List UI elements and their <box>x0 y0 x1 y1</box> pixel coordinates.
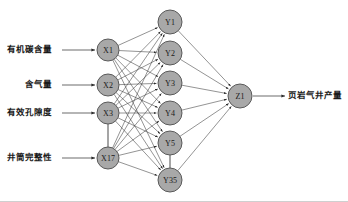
node-Y2[interactable]: Y2 <box>158 41 182 65</box>
edge-X2-to-Y1 <box>116 32 161 78</box>
edge-X1-to-Y1 <box>118 28 158 46</box>
edge-X2-to-Y35 <box>114 94 163 168</box>
node-label-Y1: Y1 <box>165 18 175 27</box>
input-label-3: 有效孔隙度 <box>7 108 52 117</box>
edge-Y4-to-Z1 <box>182 99 227 110</box>
node-X2[interactable]: X2 <box>97 74 119 96</box>
node-label-Y35: Y35 <box>163 176 177 185</box>
edge-Y35-to-Z1 <box>178 106 232 170</box>
node-label-Y3: Y3 <box>165 79 175 88</box>
edges-hidden-to-output <box>178 31 232 171</box>
node-label-Y2: Y2 <box>165 49 175 58</box>
edge-X1-to-Y2 <box>119 51 157 53</box>
node-label-Y5: Y5 <box>165 139 175 148</box>
node-Y35[interactable]: Y35 <box>158 168 182 192</box>
input-label-4: 井筒完整性 <box>7 153 52 162</box>
node-X1[interactable]: X1 <box>97 39 119 61</box>
node-label-X17: X17 <box>101 154 115 163</box>
edge-X1-to-Y5 <box>114 59 162 132</box>
node-label-X3: X3 <box>103 109 113 118</box>
output-label-1: 页岩气井产量 <box>288 91 342 100</box>
edges-input-to-hidden <box>113 28 165 176</box>
node-label-Y4: Y4 <box>165 109 175 118</box>
node-Y4[interactable]: Y4 <box>158 101 182 125</box>
node-Z1[interactable]: Z1 <box>228 84 252 108</box>
edge-X3-to-Y5 <box>118 118 158 137</box>
node-label-X1: X1 <box>103 46 113 55</box>
node-label-Z1: Z1 <box>236 92 245 101</box>
node-Y1[interactable]: Y1 <box>158 10 182 34</box>
edge-Y2-to-Z1 <box>180 59 228 89</box>
neural-network-figure: X1X2X3X17Y1Y2Y3Y4Y5Y35Z1 有机碳含量含气量有效孔隙度井筒… <box>0 0 348 202</box>
edge-X17-to-Y35 <box>118 162 157 176</box>
node-label-X2: X2 <box>103 81 113 90</box>
edge-Y1-to-Z1 <box>178 31 230 86</box>
node-Y5[interactable]: Y5 <box>158 131 182 155</box>
edge-Y3-to-Z1 <box>182 85 227 93</box>
input-label-1: 有机碳含量 <box>7 45 52 54</box>
network-canvas: X1X2X3X17Y1Y2Y3Y4Y5Y35Z1 <box>0 0 348 202</box>
edge-Y5-to-Z1 <box>180 104 229 137</box>
node-X3[interactable]: X3 <box>97 102 119 124</box>
bottom-rule <box>0 201 348 202</box>
edge-X17-to-Y3 <box>115 93 161 149</box>
input-label-2: 含气量 <box>25 80 52 89</box>
node-Y3[interactable]: Y3 <box>158 71 182 95</box>
node-X17[interactable]: X17 <box>97 147 119 169</box>
